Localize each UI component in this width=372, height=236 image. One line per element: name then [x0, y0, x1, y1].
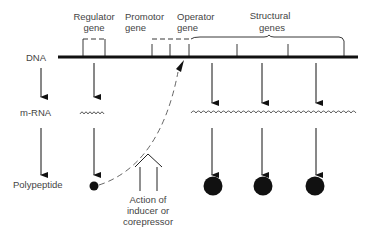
operon-diagram: Regulator gene Promotor gene Operator ge… [0, 0, 372, 236]
promotor-label-line1: Promotor [125, 11, 164, 22]
promotor-label-line2: gene [125, 22, 146, 33]
structural-bracket-right [269, 35, 344, 41]
inducer-action-arrow [135, 154, 162, 191]
regulator-gene-label: Regulator gene [73, 11, 114, 33]
regulator-mrna [80, 112, 104, 114]
structural-protein-2 [254, 177, 273, 196]
regulator-label-line2: gene [83, 22, 104, 33]
promotor-gene-label: Promotor gene [125, 11, 164, 33]
structural-label-line2: genes [259, 22, 285, 33]
structural-protein-3 [306, 177, 325, 196]
operator-gene-label: Operator gene [177, 11, 215, 33]
structural-bracket-left [191, 35, 269, 39]
mrna-label: m-RNA [20, 107, 52, 118]
dna-label: DNA [26, 52, 47, 63]
operator-label-line2: gene [177, 22, 198, 33]
action-label-line2: inducer or [127, 205, 169, 216]
action-label-line1: Action of [130, 194, 167, 205]
structural-label-line1: Structural [250, 10, 291, 21]
operator-label-line1: Operator [177, 11, 215, 22]
regulator-label-line1: Regulator [73, 11, 114, 22]
repressor-binding-arrow [99, 72, 178, 185]
structural-genes-label: Structural genes [250, 10, 291, 33]
repressor-protein [90, 182, 99, 191]
structural-mrna [191, 111, 356, 113]
structural-protein-1 [204, 177, 223, 196]
polypeptide-label: Polypeptide [13, 179, 63, 190]
action-label-line3: corepressor [123, 216, 173, 227]
repressor-binding-arrowhead [176, 60, 184, 72]
